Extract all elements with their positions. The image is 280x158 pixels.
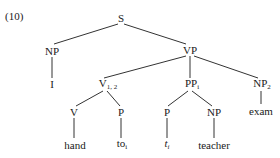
node-S: S (118, 12, 124, 24)
leaf-hand: hand (64, 139, 85, 151)
node-VP: VP (183, 44, 197, 56)
node-NP-2: NP2 (253, 77, 271, 93)
leaf-exam: exam (249, 105, 273, 117)
leaf-teacher: teacher (198, 139, 230, 151)
leaf-trace-i: ti (164, 137, 169, 153)
node-P-trace: P (164, 106, 170, 118)
tree-edges (0, 0, 280, 158)
node-NP-subject: NP (45, 45, 59, 57)
leaf-to-i: toi (117, 137, 128, 153)
node-V: V (70, 106, 78, 118)
node-V-1-2: V1, 2 (99, 77, 117, 93)
node-PP-i: PPi (185, 77, 199, 93)
example-number: (10) (5, 10, 23, 22)
leaf-I: I (50, 78, 54, 90)
node-P-to: P (118, 106, 124, 118)
node-NP-object: NP (207, 106, 221, 118)
